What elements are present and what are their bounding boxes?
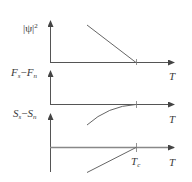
- xlabel-order-parameter: T: [169, 71, 175, 82]
- ylabel-entropy: Ss−Sn: [13, 108, 36, 121]
- order-parameter-curve: [87, 25, 136, 63]
- ylabel-order-parameter-main: |ψ|: [23, 22, 34, 34]
- tc-label-sub: c: [137, 161, 140, 169]
- entropy-curve: [87, 148, 136, 173]
- tc-label: Tc: [131, 156, 140, 169]
- ylabel-free-energy-b-sub: n: [33, 72, 37, 80]
- free-energy-curve: [87, 105, 136, 126]
- panel-free-energy: [50, 71, 174, 125]
- ylabel-entropy-b-sub: n: [33, 113, 37, 121]
- panel-entropy: [50, 114, 174, 173]
- ylabel-free-energy: Fs−Fn: [11, 67, 37, 80]
- xlabel-free-energy: T: [169, 114, 175, 125]
- superconducting-transition-diagram: |ψ|2 Fs−Fn Ss−Sn T T T Tc: [0, 0, 192, 182]
- panel-order-parameter: [50, 21, 174, 65]
- ylabel-free-energy-a: F: [11, 66, 18, 78]
- ylabel-order-parameter-sup: 2: [34, 22, 38, 30]
- xlabel-entropy: T: [169, 157, 175, 168]
- ylabel-order-parameter: |ψ|2: [23, 23, 38, 34]
